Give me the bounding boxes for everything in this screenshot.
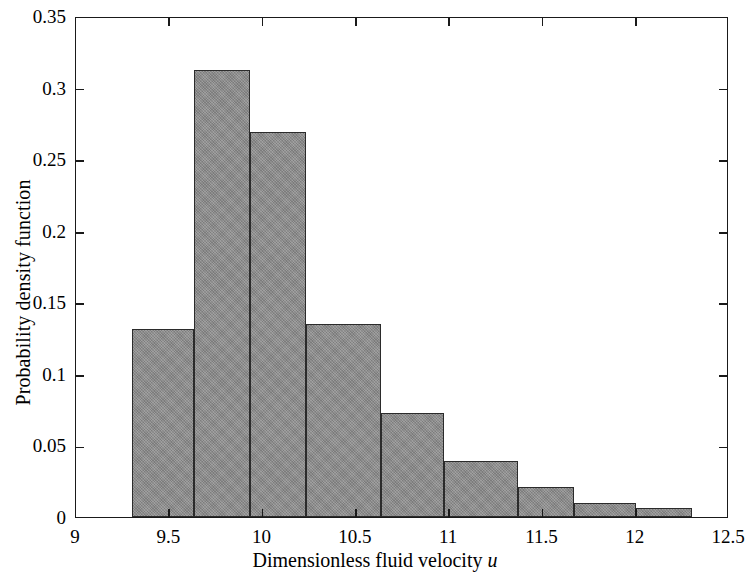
x-axis-title-text: Dimensionless fluid velocity [253, 549, 483, 571]
x-tick-mark [355, 509, 357, 517]
y-tick-mark [76, 89, 84, 91]
y-tick-mark-right [719, 232, 727, 234]
x-tick-label: 11 [408, 527, 488, 546]
x-tick-mark-top [355, 18, 357, 26]
histogram-bar [574, 503, 636, 517]
y-tick-mark-right [719, 375, 727, 377]
y-tick-label: 0.1 [42, 365, 66, 384]
histogram-bar [444, 461, 519, 517]
histogram-figure: Probability density function 00.050.10.1… [0, 0, 750, 585]
y-axis-title-text: Probability density function [12, 179, 35, 405]
x-tick-mark [168, 509, 170, 517]
x-tick-mark [262, 509, 264, 517]
x-axis-title-symbol: u [487, 549, 497, 571]
y-tick-mark-right [719, 447, 727, 449]
x-tick-label: 11.5 [501, 527, 581, 546]
y-tick-label: 0.05 [33, 436, 66, 455]
y-tick-mark [76, 303, 84, 305]
x-tick-mark-top [635, 18, 637, 26]
y-tick-label: 0.25 [33, 150, 66, 169]
y-tick-mark [76, 232, 84, 234]
x-tick-mark-top [448, 18, 450, 26]
histogram-bar [636, 508, 692, 517]
histogram-bar [250, 132, 306, 517]
histogram-bars [76, 18, 727, 517]
y-tick-mark-right [719, 160, 727, 162]
y-tick-mark [76, 160, 84, 162]
y-tick-mark-right [719, 303, 727, 305]
y-tick-label: 0 [57, 508, 67, 527]
y-tick-label: 0.2 [42, 222, 66, 241]
y-tick-mark [76, 447, 84, 449]
y-tick-mark [76, 375, 84, 377]
x-tick-label: 9.5 [128, 527, 208, 546]
histogram-bar [381, 413, 444, 517]
plot-area [75, 17, 728, 518]
x-tick-label: 12.5 [688, 527, 750, 546]
histogram-bar [306, 324, 381, 517]
x-tick-label: 10.5 [315, 527, 395, 546]
y-tick-label: 0.3 [42, 79, 66, 98]
histogram-bar [194, 70, 250, 517]
x-tick-label: 9 [35, 527, 115, 546]
histogram-bar [518, 487, 574, 517]
y-tick-label: 0.35 [33, 7, 66, 26]
x-tick-mark [542, 509, 544, 517]
y-tick-mark-right [719, 89, 727, 91]
histogram-bar [132, 329, 194, 517]
x-tick-mark [448, 509, 450, 517]
x-tick-mark [635, 509, 637, 517]
y-tick-label: 0.15 [33, 293, 66, 312]
x-tick-mark-top [168, 18, 170, 26]
x-axis-title: Dimensionless fluid velocity u [0, 549, 750, 572]
x-tick-mark-top [262, 18, 264, 26]
x-tick-label: 10 [222, 527, 302, 546]
x-tick-mark-top [542, 18, 544, 26]
x-tick-label: 12 [595, 527, 675, 546]
